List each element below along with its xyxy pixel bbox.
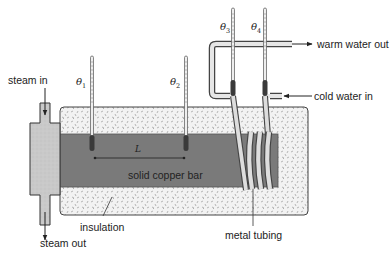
steam-in-label: steam in [8, 75, 48, 86]
theta-1-label: θ1 [76, 77, 86, 90]
theta-4-label: θ4 [251, 22, 261, 35]
length-label: L [135, 145, 141, 154]
warm-water-out-label: warm water out [317, 39, 389, 50]
theta-3-label: θ3 [220, 22, 230, 35]
cold-water-in-label: cold water in [314, 91, 373, 102]
steam-out-label: steam out [40, 238, 86, 249]
metal-tubing-label: metal tubing [225, 230, 282, 241]
insulation-label: insulation [80, 222, 124, 233]
tubing-coils [249, 132, 270, 189]
theta-2-label: θ2 [170, 77, 180, 90]
thermometer-1 [90, 56, 95, 151]
thermometer-2 [184, 56, 189, 151]
copper-bar-label: solid copper bar [128, 170, 203, 181]
thermometer-4 [263, 8, 268, 96]
apparatus-diagram: steam in steam out insulation solid copp… [0, 0, 391, 259]
thermometer-3 [231, 8, 236, 96]
steam-chamber [30, 88, 60, 240]
